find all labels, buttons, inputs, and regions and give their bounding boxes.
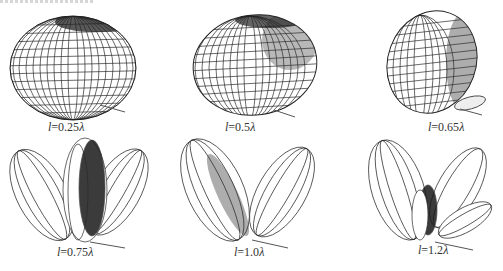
pattern-label: l=0.5λ bbox=[225, 120, 255, 135]
radiation-pattern-ellipsoid bbox=[170, 0, 350, 130]
pattern-label: l=0.25λ bbox=[48, 120, 84, 135]
radiation-pattern-four-lobes bbox=[340, 140, 503, 250]
pattern-panel-0.5: l=0.5λ bbox=[170, 0, 350, 130]
radiation-pattern-main-and-side-lobe bbox=[370, 0, 503, 130]
pattern-panel-1.0: l=1.0λ bbox=[170, 140, 330, 271]
pattern-panel-0.25: l=0.25λ bbox=[0, 0, 170, 130]
pattern-label: l=0.65λ bbox=[428, 120, 464, 135]
pattern-label: l=1.0λ bbox=[234, 245, 264, 260]
radiation-pattern-ellipsoid bbox=[0, 0, 170, 130]
pattern-label: l=1.2λ bbox=[418, 243, 448, 258]
radiation-pattern-three-lobes bbox=[0, 140, 170, 250]
radiation-pattern-two-lobes bbox=[170, 140, 330, 250]
pattern-panel-0.75: l=0.75λ bbox=[0, 140, 170, 271]
pattern-panel-1.2: l=1.2λ bbox=[340, 140, 503, 271]
pattern-label: l=0.75λ bbox=[57, 245, 93, 260]
pattern-panel-0.65: l=0.65λ bbox=[370, 0, 503, 130]
